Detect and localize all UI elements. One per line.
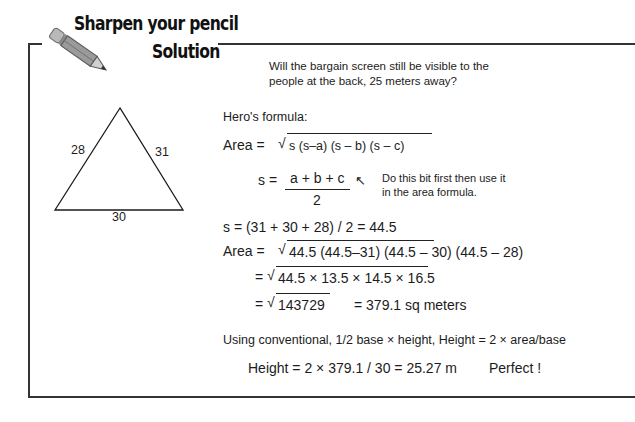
frame-left-border <box>28 43 30 398</box>
frame-top-border-right <box>218 43 635 45</box>
sqrt-symbol: √ <box>278 135 286 151</box>
sqrt-bar <box>276 293 330 294</box>
area-formula-prefix: Area = <box>223 137 265 153</box>
area-step2-prefix: = <box>255 269 263 285</box>
height-calculation: Height = 2 × 379.1 / 30 = 25.27 m <box>248 360 457 376</box>
area-formula-radicand: s (s–a) (s – b) (s – c) <box>289 139 404 153</box>
question-text: Will the bargain screen still be visible… <box>269 59 529 89</box>
area-step3-prefix: = <box>255 296 263 312</box>
header-subtitle: Solution <box>152 40 220 62</box>
s-formula-fraction-bar <box>285 189 350 190</box>
area-step2-radicand: 44.5 × 13.5 × 14.5 × 16.5 <box>278 270 435 286</box>
note-line-2: in the area formula. <box>382 186 477 198</box>
question-line-1: Will the bargain screen still be visible… <box>269 59 529 74</box>
frame-top-border-left <box>28 43 42 45</box>
s-formula-numerator: a + b + c <box>290 170 344 186</box>
s-formula-denominator: 2 <box>313 192 321 208</box>
triangle-side-left-label: 28 <box>71 143 85 157</box>
area-result: = 379.1 sq meters <box>354 297 466 313</box>
triangle-side-bottom-label: 30 <box>112 210 126 224</box>
heros-formula-label: Hero's formula: <box>223 110 307 124</box>
header-title: Sharpen your pencil <box>74 12 238 34</box>
sqrt-bar <box>287 240 434 241</box>
s-calculation: s = (31 + 30 + 28) / 2 = 44.5 <box>223 219 397 235</box>
area-sub-prefix: Area = <box>223 243 265 259</box>
s-formula-prefix: s = <box>258 172 277 188</box>
area-step3-radicand: 143729 <box>278 297 325 313</box>
verdict-text: Perfect ! <box>489 360 541 376</box>
area-sub-radicand: 44.5 (44.5–31) (44.5 – 30) (44.5 – 28) <box>289 244 523 260</box>
sqrt-bar <box>287 133 432 134</box>
sqrt-symbol: √ <box>267 267 275 283</box>
frame-bottom-border <box>28 396 635 398</box>
triangle-side-right-label: 31 <box>155 145 169 159</box>
sqrt-bar <box>276 266 428 267</box>
question-line-2: people at the back, 25 meters away? <box>269 74 529 89</box>
arrow-icon: ↖ <box>355 173 366 188</box>
note-line-1: Do this bit first then use it <box>382 172 506 184</box>
sqrt-symbol: √ <box>278 241 286 257</box>
triangle-diagram <box>50 100 200 220</box>
sqrt-symbol: √ <box>267 294 275 310</box>
conventional-formula: Using conventional, 1/2 base × height, H… <box>223 333 566 347</box>
